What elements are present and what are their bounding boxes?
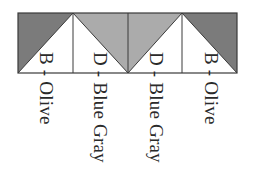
block-3-label: D - Blue Gray [147, 52, 166, 163]
block-2-label: D - Blue Gray [91, 52, 110, 163]
block-4-label: B - Olive [202, 52, 221, 125]
block-1-label: B - Olive [37, 52, 56, 125]
